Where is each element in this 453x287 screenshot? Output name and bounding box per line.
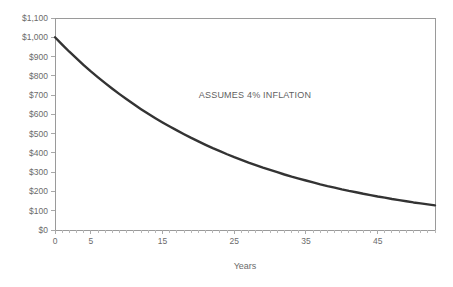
y-tick-label: $700 xyxy=(29,90,48,100)
y-tick-label: $400 xyxy=(29,148,48,158)
x-tick-label: 45 xyxy=(373,236,383,246)
chart-background xyxy=(0,0,453,287)
y-tick-label: $1,000 xyxy=(22,32,48,42)
y-tick-label: $300 xyxy=(29,167,48,177)
y-tick-label: $600 xyxy=(29,109,48,119)
y-tick-label: $100 xyxy=(29,206,48,216)
y-tick-label: $0 xyxy=(39,225,49,235)
inflation-assumption-annotation: ASSUMES 4% INFLATION xyxy=(199,90,311,100)
x-tick-label: 15 xyxy=(158,236,168,246)
x-tick-label: 5 xyxy=(88,236,93,246)
chart-container: $1,100$1,000$900$800$700$600$500$400$300… xyxy=(0,0,453,287)
y-tick-label: $1,100 xyxy=(22,13,48,23)
x-tick-label: 0 xyxy=(53,236,58,246)
x-tick-label: 35 xyxy=(301,236,311,246)
y-tick-label: $200 xyxy=(29,186,48,196)
x-axis-title: Years xyxy=(234,261,257,271)
x-tick-label: 25 xyxy=(230,236,240,246)
y-tick-label: $900 xyxy=(29,52,48,62)
y-tick-label: $800 xyxy=(29,71,48,81)
y-tick-label: $500 xyxy=(29,129,48,139)
inflation-decay-line-chart: $1,100$1,000$900$800$700$600$500$400$300… xyxy=(0,0,453,287)
